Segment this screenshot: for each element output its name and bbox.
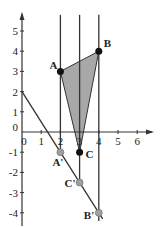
origin-label: 0 [13,121,19,133]
x-tick-label: 0 [21,135,27,147]
projected-label-b: B' [84,209,94,221]
y-tick-label: 3 [13,65,19,77]
x-tick-label: 5 [115,135,121,147]
projected-point-a [57,149,64,156]
y-tick-label: -3 [9,187,19,199]
point-label-a: A [49,59,57,71]
y-tick-label: -4 [9,207,19,219]
point-label-b: B [104,37,112,49]
projected-point-b [95,209,102,216]
y-tick-label: 4 [13,45,19,57]
coordinate-diagram: 012345654321-1-2-3-40ABCA'C'B' [0,0,162,227]
point-a [57,68,64,75]
y-tick-label: -1 [9,146,18,158]
y-tick-label: 5 [13,25,19,37]
x-tick-label: 4 [96,135,102,147]
point-b [95,48,102,55]
y-axis-arrow-icon [20,12,25,20]
y-tick-label: 2 [13,86,19,98]
point-c [76,149,83,156]
y-tick-label: -2 [9,166,18,178]
x-tick-label: 3 [77,135,83,147]
projected-point-c [76,179,83,186]
y-tick-label: 1 [13,106,19,118]
x-axis-arrow-icon [146,130,154,135]
x-tick-label: 6 [134,135,140,147]
projected-label-c: C' [65,177,76,189]
x-tick-label: 2 [58,135,64,147]
x-tick-label: 1 [38,135,44,147]
projected-label-a: A' [52,156,63,168]
point-label-c: C [86,148,94,160]
